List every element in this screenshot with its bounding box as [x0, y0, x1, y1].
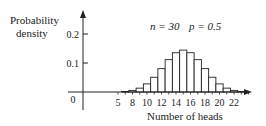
histogram-bar	[151, 77, 158, 92]
histogram-bar	[201, 69, 208, 92]
x-tick-label: 8	[130, 97, 135, 108]
histogram-bar	[194, 60, 201, 92]
x-tick-label: 16	[186, 97, 196, 108]
histogram-bar	[187, 53, 194, 92]
y-tick-label: 0.2	[67, 29, 80, 40]
histogram-bar	[165, 60, 172, 92]
histogram-bar	[216, 84, 223, 92]
histogram-bar	[136, 88, 143, 92]
x-tick-label: 22	[229, 97, 239, 108]
x-tick-label: 5	[116, 97, 121, 108]
histogram-bar	[158, 69, 165, 92]
y-tick-label: 0.1	[67, 58, 80, 69]
histogram-bar	[209, 77, 216, 92]
histogram-bar	[143, 84, 150, 92]
x-tick-label: 10	[142, 97, 152, 108]
binomial-histogram-chart: Probability density n = 30 p = 0.5 0.10.…	[0, 0, 266, 126]
origin-label: 0	[71, 94, 76, 105]
histogram-bars	[122, 50, 245, 92]
histogram-bar	[180, 50, 187, 92]
y-axis-arrow-icon	[80, 10, 86, 18]
p-annotation: p = 0.5	[188, 20, 222, 32]
x-tick-label: 12	[157, 97, 167, 108]
x-tick-label: 14	[171, 97, 181, 108]
histogram-bar	[172, 53, 179, 92]
x-tick-label: 20	[215, 97, 225, 108]
y-axis-label-line1: Probability	[10, 14, 59, 26]
y-ticks: 0.10.2	[67, 29, 89, 69]
x-tick-label: 18	[200, 97, 210, 108]
x-axis-arrow-icon	[244, 89, 252, 95]
x-ticks: 5810121416182022	[116, 92, 249, 108]
y-axis-label-line2: density	[16, 27, 48, 39]
histogram-bar	[223, 88, 230, 92]
n-annotation: n = 30	[150, 20, 180, 32]
x-axis-label: Number of heads	[147, 110, 223, 122]
